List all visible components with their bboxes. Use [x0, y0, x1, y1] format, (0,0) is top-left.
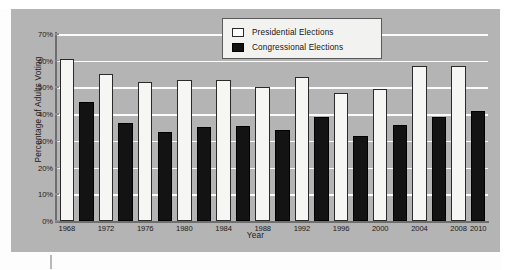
bar-1992 [295, 77, 309, 221]
bar-2008 [451, 66, 465, 221]
x-axis-tick-label: 2008 [450, 224, 467, 233]
bar-1986 [236, 126, 250, 221]
x-axis-tick-label: 1976 [137, 224, 154, 233]
bar-1978 [158, 132, 172, 221]
chart-legend: Presidential Elections Congressional Ele… [222, 18, 382, 59]
bar-1982 [197, 127, 211, 221]
bar-2006 [432, 117, 446, 221]
legend-label-congressional: Congressional Elections [252, 43, 343, 52]
plot-area [57, 34, 488, 221]
bar-1970 [79, 102, 93, 221]
x-axis-line [55, 221, 489, 223]
bar-2002 [393, 125, 407, 221]
bar-1976 [138, 82, 152, 221]
bar-1968 [60, 59, 74, 221]
y-axis-tick-label: 40% [27, 110, 53, 119]
page-edge-top [0, 0, 525, 9]
y-axis-tick-label: 0% [27, 217, 53, 226]
bar-1974 [118, 123, 132, 221]
y-axis-tick-mark [55, 193, 59, 195]
y-axis-tick-label: 10% [27, 190, 53, 199]
figure-page: Percentage of Adults Voting Year 0%10%20… [0, 0, 525, 270]
y-axis-ticks: 0%10%20%30%40%50%60%70% [21, 34, 53, 221]
x-axis-tick-label: 1992 [294, 224, 311, 233]
y-axis-tick-label: 30% [27, 136, 53, 145]
x-axis-tick-label: 1980 [176, 224, 193, 233]
y-axis-tick-label: 20% [27, 163, 53, 172]
bar-2010 [471, 111, 485, 221]
y-axis-tick-label: 50% [27, 83, 53, 92]
x-axis-tick-label: 2000 [372, 224, 389, 233]
y-axis-tick-mark [55, 33, 59, 35]
y-axis-tick-mark [55, 167, 59, 169]
x-axis-tick-label: 2010 [470, 224, 487, 233]
chart-figure: Percentage of Adults Voting Year 0%10%20… [11, 9, 500, 252]
bar-1994 [314, 117, 328, 221]
x-axis-tick-label: 1984 [215, 224, 232, 233]
x-axis-tick-label: 1968 [59, 224, 76, 233]
y-axis-tick-mark [55, 140, 59, 142]
bar-1996 [334, 93, 348, 221]
y-axis-tick-label: 60% [27, 56, 53, 65]
y-axis-tick-mark [55, 113, 59, 115]
y-axis-tick-mark [55, 60, 59, 62]
bar-1990 [275, 130, 289, 221]
white-square-swatch-icon [232, 28, 244, 37]
y-axis-tick-mark [55, 87, 59, 89]
bar-1998 [353, 136, 367, 221]
x-axis-tick-label: 2004 [411, 224, 428, 233]
x-axis-tick-label: 1972 [98, 224, 115, 233]
page-edge-right [501, 0, 525, 270]
y-axis-tick-label: 70% [27, 30, 53, 39]
bar-2000 [373, 89, 387, 221]
bar-1980 [177, 80, 191, 221]
y-axis-tick-mark [55, 220, 59, 222]
bar-2004 [412, 66, 426, 221]
x-axis-tick-label: 1996 [333, 224, 350, 233]
gridline [57, 61, 488, 63]
black-square-swatch-icon [232, 43, 244, 52]
bar-1972 [99, 74, 113, 221]
legend-item-presidential: Presidential Elections [232, 26, 334, 38]
legend-item-congressional: Congressional Elections [232, 41, 343, 53]
bar-1984 [216, 80, 230, 221]
legend-label-presidential: Presidential Elections [252, 28, 334, 37]
bar-1988 [255, 87, 269, 221]
x-axis-tick-label: 1988 [254, 224, 271, 233]
page-margin-tick [50, 255, 52, 269]
